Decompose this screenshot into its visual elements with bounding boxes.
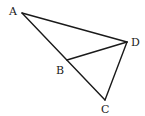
label-d: D bbox=[131, 36, 140, 49]
geometry-diagram: A B C D bbox=[0, 0, 145, 116]
label-c: C bbox=[101, 103, 109, 116]
label-a: A bbox=[8, 5, 18, 18]
label-b: B bbox=[56, 64, 64, 77]
segment-ac bbox=[22, 13, 105, 100]
segment-ad bbox=[22, 13, 127, 42]
segment-bd bbox=[67, 42, 127, 60]
segment-dc bbox=[105, 42, 127, 100]
segments bbox=[22, 13, 127, 100]
